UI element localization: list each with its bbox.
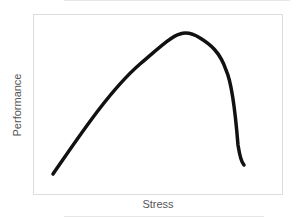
- bottom-rule: [64, 216, 264, 217]
- performance-curve: [0, 0, 298, 218]
- y-axis-label: Performance: [11, 74, 23, 137]
- x-axis-label: Stress: [0, 198, 298, 210]
